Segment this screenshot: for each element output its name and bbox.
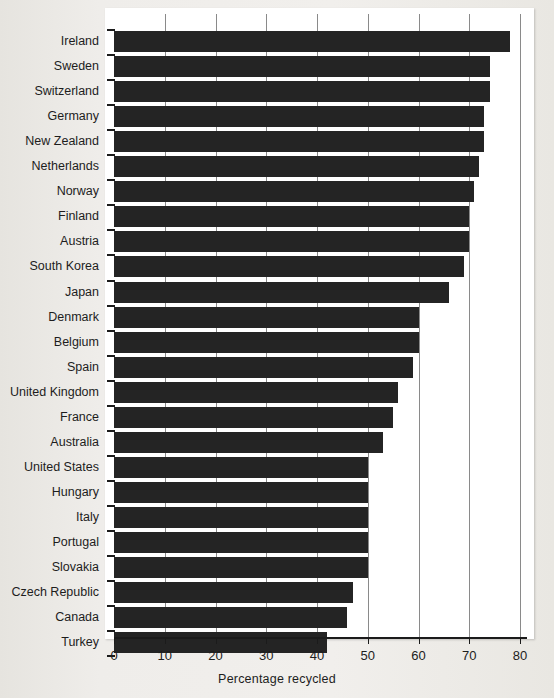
x-tick-label-40: 40 (297, 648, 337, 663)
x-tick-label-70: 70 (449, 648, 489, 663)
x-tick-label-0: 0 (94, 648, 134, 663)
x-tick-label-50: 50 (348, 648, 388, 663)
bar-chart-figure: IrelandSwedenSwitzerlandGermanyNew Zeala… (0, 0, 554, 698)
x-tick-label-60: 60 (399, 648, 439, 663)
x-tick-label-10: 10 (145, 648, 185, 663)
x-axis-title: Percentage recycled (0, 672, 554, 686)
x-tick-label-80: 80 (500, 648, 540, 663)
x-tick-label-30: 30 (246, 648, 286, 663)
x-tick-label-20: 20 (196, 648, 236, 663)
x-axis-tick-labels: 01020304050607080 (0, 0, 554, 698)
